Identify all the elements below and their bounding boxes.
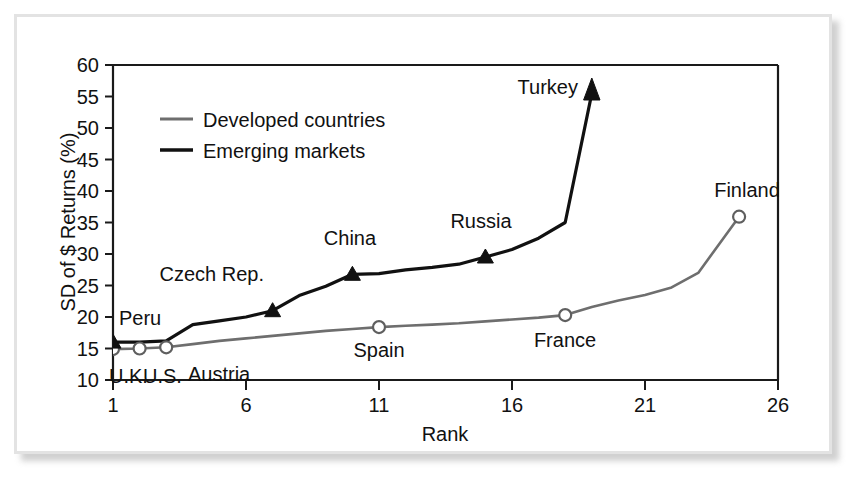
x-tick-label-26: 26: [767, 394, 789, 416]
label-russia: Russia: [450, 210, 512, 232]
label-china: China: [324, 227, 377, 249]
label-spain: Spain: [353, 339, 404, 361]
y-tick-label-50: 50: [77, 117, 99, 139]
y-tick-label-40: 40: [77, 180, 99, 202]
chart-legend: Developed countries Emerging markets: [160, 109, 385, 162]
legend-label-emerging-markets: Emerging markets: [203, 140, 365, 162]
turkey-arrow-icon: [584, 78, 600, 100]
marker-austria: [160, 341, 172, 353]
y-axis-title: SD of $ Returns (%): [57, 133, 79, 312]
label-france: France: [534, 329, 596, 351]
label-finland: Finland: [714, 179, 780, 201]
marker-finland: [733, 211, 745, 223]
label-peru: Peru: [119, 307, 161, 329]
x-tick-label-16: 16: [501, 394, 523, 416]
figure-page: 60 55 50 45 40 35 30 25 20 15 10 1 6 11 …: [0, 0, 862, 482]
y-tick-label-45: 45: [77, 149, 99, 171]
y-tick-label-15: 15: [77, 338, 99, 360]
y-tick-label-20: 20: [77, 306, 99, 328]
y-tick-label-60: 60: [77, 54, 99, 76]
line-chart: 60 55 50 45 40 35 30 25 20 15 10 1 6 11 …: [0, 0, 862, 482]
x-tick-label-11: 11: [369, 394, 390, 416]
label-czech-rep: Czech Rep.: [160, 263, 265, 285]
label-us: U.S.: [143, 365, 182, 387]
x-tick-label-6: 6: [240, 394, 251, 416]
x-tick-label-1: 1: [107, 394, 118, 416]
y-tick-label-30: 30: [77, 243, 99, 265]
y-tick-label-10: 10: [77, 369, 99, 391]
chart-series-group: [105, 78, 745, 355]
x-axis-title: Rank: [422, 423, 470, 445]
marker-france: [559, 309, 571, 321]
legend-label-developed-countries: Developed countries: [203, 109, 385, 131]
label-austria: Austria: [188, 363, 251, 385]
y-tick-label-35: 35: [77, 212, 99, 234]
marker-us: [134, 343, 146, 355]
y-axis-ticks: 60 55 50 45 40 35 30 25 20 15 10: [77, 54, 113, 391]
marker-czech-rep: [265, 303, 281, 317]
y-tick-label-25: 25: [77, 275, 99, 297]
marker-spain: [373, 321, 385, 333]
x-tick-label-21: 21: [634, 394, 656, 416]
y-tick-label-55: 55: [77, 86, 99, 108]
x-axis-ticks: 1 6 11 16 21 26: [107, 380, 789, 416]
label-turkey: Turkey: [518, 76, 578, 98]
